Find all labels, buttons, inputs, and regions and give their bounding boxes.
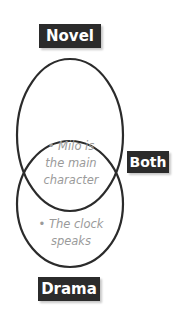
drama-item-line: • The clock xyxy=(28,216,114,233)
intersection-item: • Milo is the main character xyxy=(28,138,114,189)
intersection-item-line: • Milo is xyxy=(28,138,114,155)
drama-label: Drama xyxy=(38,277,100,301)
drama-item-line: speaks xyxy=(28,233,114,250)
drama-item: • The clock speaks xyxy=(28,216,114,250)
intersection-item-line: character xyxy=(28,172,114,189)
both-label: Both xyxy=(127,151,169,173)
novel-label: Novel xyxy=(39,24,101,48)
intersection-item-line: the main xyxy=(28,155,114,172)
